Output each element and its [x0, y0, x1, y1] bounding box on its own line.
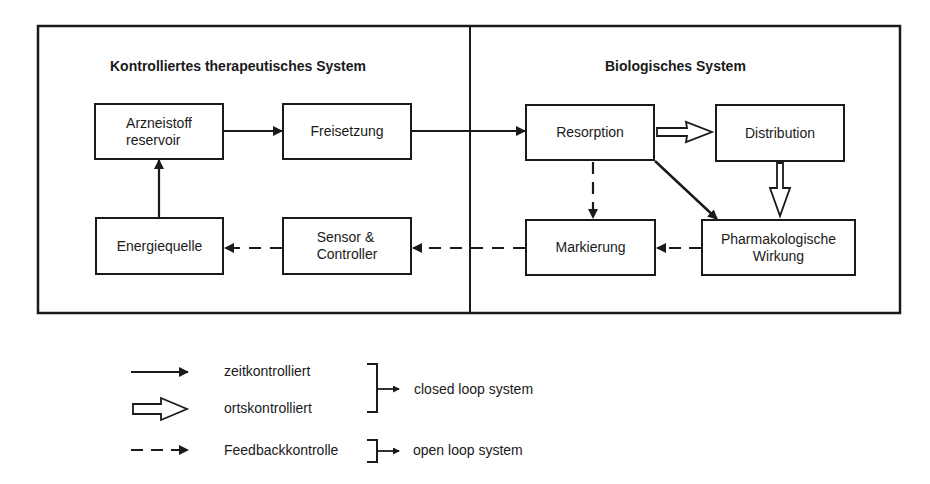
node-energiequelle: Energiequelle — [95, 217, 224, 275]
node-markierung: Markierung — [525, 219, 656, 276]
section-title-biological-system: Biologisches System — [605, 58, 746, 74]
node-distribution: Distribution — [715, 104, 845, 162]
section-title-therapeutic-system: Kontrolliertes therapeutisches System — [110, 58, 366, 74]
node-label: Markierung — [555, 239, 625, 256]
legend-group-closed-loop: closed loop system — [414, 381, 533, 397]
node-label: Arzneistoff reservoir — [126, 115, 192, 149]
node-label: Resorption — [556, 124, 624, 141]
edge-resorption-wirkung — [655, 161, 717, 219]
node-arzneistoff-reservoir: Arzneistoff reservoir — [94, 103, 224, 160]
edge-resorption-distribution — [657, 122, 712, 142]
node-resorption: Resorption — [525, 104, 655, 161]
legend-label-zeitkontrolliert: zeitkontrolliert — [224, 363, 310, 379]
node-freisetzung: Freisetzung — [282, 103, 412, 160]
node-label: Energiequelle — [117, 238, 203, 255]
bracket-open-loop — [367, 440, 377, 462]
legend-group-open-loop: open loop system — [413, 442, 523, 458]
node-label: Sensor & Controller — [317, 229, 378, 263]
node-pharmakologische-wirkung: Pharmakologische Wirkung — [701, 219, 856, 276]
legend-label-feedbackkontrolle: Feedbackkontrolle — [224, 442, 338, 458]
node-sensor-controller: Sensor & Controller — [282, 217, 412, 275]
node-label: Freisetzung — [310, 123, 383, 140]
legend-label-ortskontrolliert: ortskontrolliert — [224, 400, 312, 416]
node-label: Distribution — [745, 125, 815, 142]
edge-distribution-wirkung — [770, 163, 790, 216]
legend-hollow-arrow-icon — [133, 398, 187, 420]
bracket-closed-loop — [367, 364, 377, 412]
node-label: Pharmakologische Wirkung — [721, 231, 836, 265]
